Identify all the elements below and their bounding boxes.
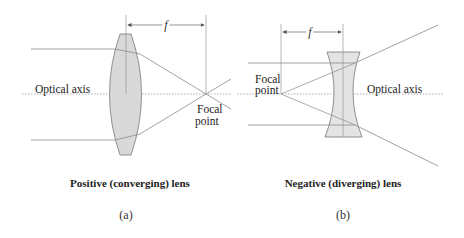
sublabel-a: (a): [119, 208, 132, 223]
sublabel-b: (b): [336, 208, 350, 223]
focal-point-label-a-line1: Focal: [197, 103, 223, 115]
caption-b: Negative (diverging) lens: [285, 177, 402, 189]
lens-diagram: [0, 0, 464, 238]
focal-point-label-b-line2: point: [255, 84, 279, 96]
converging-lens: [110, 34, 142, 155]
focal-point-label-a-line2: point: [195, 115, 219, 127]
focal-length-label-b: f: [306, 25, 313, 40]
optical-axis-label-b: Optical axis: [367, 83, 422, 95]
focal-length-label-a: f: [162, 18, 169, 33]
caption-a: Positive (converging) lens: [70, 177, 190, 189]
diverging-lens: [325, 52, 362, 137]
optical-axis-label-a: Optical axis: [35, 83, 90, 95]
